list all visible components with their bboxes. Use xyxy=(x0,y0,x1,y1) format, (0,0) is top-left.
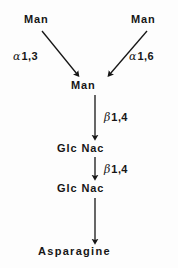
arrow-man-left-to-center xyxy=(42,31,77,74)
linkage-value: 1,6 xyxy=(137,50,154,62)
node-man-alpha-1-6: Man xyxy=(131,13,156,25)
linkage-value: 1,4 xyxy=(111,111,128,123)
node-man-core: Man xyxy=(71,79,96,91)
bond-label-alpha-1-3: α1,3 xyxy=(13,50,38,63)
bond-label-beta-1-4-upper: β1,4 xyxy=(104,111,128,124)
node-glcnac-first: Glc Nac xyxy=(57,142,104,154)
node-man-alpha-1-3: Man xyxy=(24,13,49,25)
glycan-structure-diagram: Man Man Man Glc Nac Glc Nac Asparagine α… xyxy=(0,0,178,268)
node-asparagine: Asparagine xyxy=(38,245,111,257)
bond-label-beta-1-4-lower: β1,4 xyxy=(104,163,128,176)
bond-label-alpha-1-6: α1,6 xyxy=(129,50,154,63)
linkage-value: 1,3 xyxy=(21,50,38,62)
arrow-layer xyxy=(0,0,178,268)
linkage-value: 1,4 xyxy=(111,163,128,175)
node-glcnac-second: Glc Nac xyxy=(57,182,104,194)
